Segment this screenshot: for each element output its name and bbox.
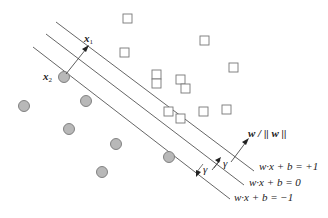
positive-class-squares [120, 14, 238, 123]
negative-class-circles [19, 72, 175, 178]
x2-to-x1-arrow [66, 49, 86, 74]
plus-plane-equation: w·x + b = +1 [259, 160, 318, 172]
arrowhead-normal [242, 138, 249, 145]
x2-label: x2 [42, 70, 53, 84]
arrowhead-x1 [82, 45, 89, 52]
normal-vector-label: w / || w || [248, 127, 286, 139]
gamma-label-bottom: γ [203, 163, 208, 175]
minus-margin-line [33, 47, 230, 199]
gamma-label-top: γ [223, 157, 228, 169]
minus-plane-equation: w·x + b = −1 [234, 191, 293, 203]
gamma-top-arrowhead [215, 157, 221, 163]
decision-boundary-line [46, 34, 244, 185]
zero-plane-equation: w·x + b = 0 [249, 176, 301, 188]
x1-label: x1 [83, 32, 94, 46]
svm-diagram: x1 x2 w / || w || γ γ w·x + b = +1 w·x +… [0, 0, 328, 218]
